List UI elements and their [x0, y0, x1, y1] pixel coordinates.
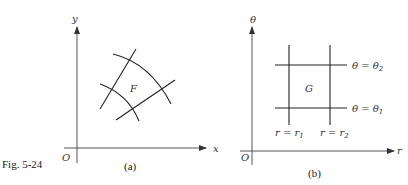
- theta1-label: θ = θ1: [352, 103, 383, 116]
- r-axis-label: r: [397, 145, 403, 156]
- region-g-label: G: [305, 83, 313, 94]
- y-axis-label: y: [71, 13, 78, 24]
- figure-canvas: y x O F (a) Fig. 5-24 θ r O G θ = θ2 θ =…: [0, 0, 408, 185]
- theta2-label: θ = θ2: [352, 60, 384, 73]
- region-f-label: F: [129, 83, 138, 94]
- panel-b-label: (b): [308, 167, 321, 180]
- figure-caption: Fig. 5-24: [2, 158, 43, 170]
- r2-label: r = r2: [320, 127, 349, 140]
- x-axis-label: x: [213, 143, 219, 154]
- radial-line-1: [100, 49, 136, 109]
- panel-a-label: (a): [124, 160, 137, 173]
- panel-a: y x O F (a): [62, 13, 219, 173]
- origin-label: O: [62, 152, 70, 163]
- origin-label-b: O: [241, 152, 249, 163]
- panel-b: θ r O G θ = θ2 θ = θ1 r = r1 r = r2 (b): [240, 14, 403, 180]
- theta-axis-label: θ: [250, 14, 256, 25]
- r1-label: r = r1: [275, 127, 304, 140]
